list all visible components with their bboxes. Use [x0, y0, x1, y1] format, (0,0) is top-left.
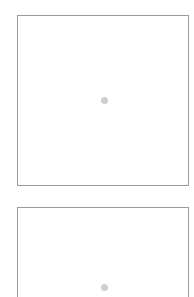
page — [0, 0, 194, 297]
image-placeholder-card-1[interactable] — [17, 15, 189, 186]
loading-dot-icon — [101, 284, 108, 291]
loading-dot-icon — [101, 97, 108, 104]
image-placeholder-card-2[interactable] — [17, 207, 189, 297]
